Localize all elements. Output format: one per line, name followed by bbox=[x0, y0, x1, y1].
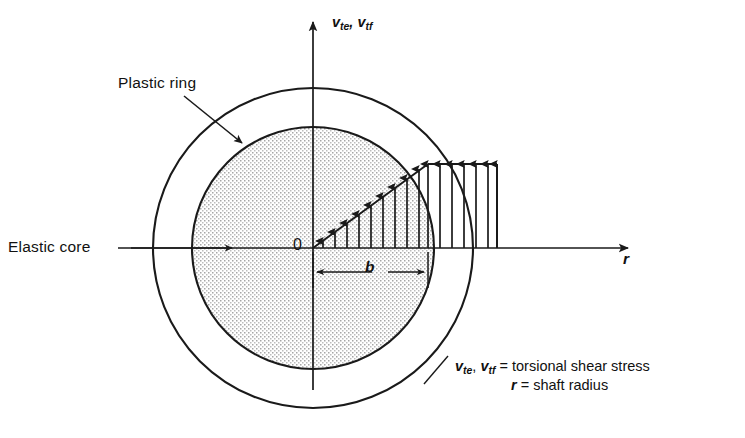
legend-text-2: shaft radius bbox=[533, 377, 608, 393]
origin-label: 0 bbox=[293, 236, 302, 255]
legend-row-radius: r = shaft radius bbox=[455, 377, 650, 394]
legend-text-1: torsional shear stress bbox=[512, 358, 650, 374]
legend-row-stress: vte, vtf = torsional shear stress bbox=[455, 358, 650, 377]
elastic-core-label: Elastic core bbox=[8, 238, 91, 256]
legend-symbol-1: v bbox=[455, 358, 463, 374]
legend-symbol-2: v bbox=[480, 358, 488, 374]
legend: vte, vtf = torsional shear stress r = sh… bbox=[455, 358, 650, 394]
radius-axis-label: r bbox=[623, 250, 629, 268]
legend-subscript-1: te bbox=[463, 365, 472, 376]
dimension-b-label: b bbox=[365, 258, 374, 276]
legend-equals-1: = bbox=[499, 358, 507, 374]
legend-symbol-r: r bbox=[511, 377, 517, 393]
legend-subscript-2: tf bbox=[489, 365, 496, 376]
stress-axis-symbol-1: v bbox=[332, 14, 340, 30]
radius-axis-symbol: r bbox=[623, 250, 629, 267]
stress-axis-separator: , bbox=[349, 14, 353, 30]
plastic-ring-label: Plastic ring bbox=[118, 74, 196, 92]
stress-axis-label: vte, vtf bbox=[332, 14, 372, 33]
legend-equals-2: = bbox=[521, 377, 529, 393]
legend-separator: , bbox=[472, 358, 476, 374]
stress-axis-subscript-1: te bbox=[340, 21, 349, 32]
stress-axis-subscript-2: tf bbox=[366, 21, 373, 32]
stress-axis-symbol-2: v bbox=[357, 14, 365, 30]
